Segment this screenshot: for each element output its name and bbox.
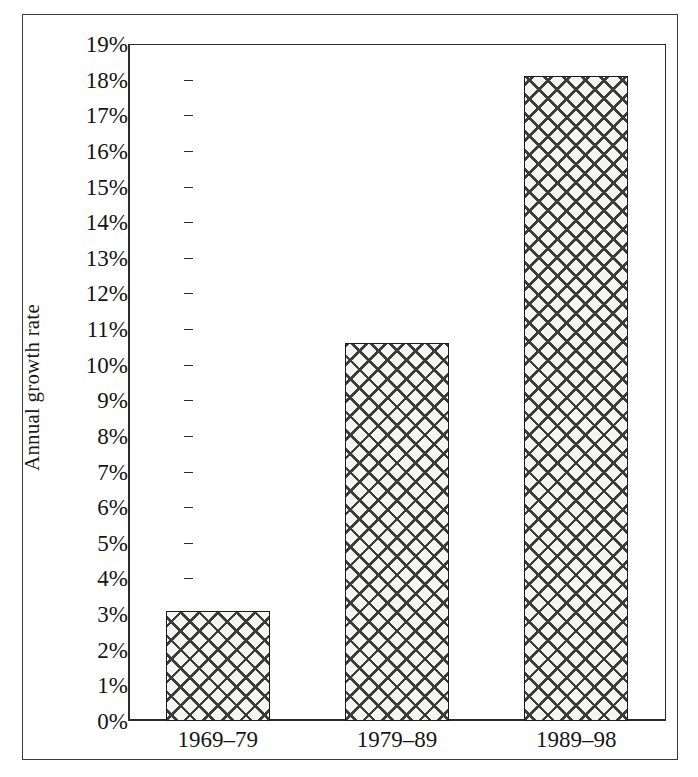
- y-tick-mark: [184, 365, 193, 366]
- y-tick-mark: [184, 400, 193, 401]
- y-axis-ticks: 0%1%2%3%4%5%6%7%8%9%10%11%12%13%14%15%16…: [56, 0, 128, 777]
- y-tick-mark: [184, 543, 193, 544]
- bar-1989–98: [524, 76, 628, 721]
- y-tick-label: 14%: [66, 211, 128, 234]
- y-axis-title: Annual growth rate: [20, 293, 45, 483]
- y-tick-mark: [184, 472, 193, 473]
- bar-1969–79: [166, 611, 270, 721]
- y-tick-mark: [184, 151, 193, 152]
- y-tick-mark: [184, 258, 193, 259]
- y-tick-label: 1%: [66, 674, 128, 697]
- y-tick-label: 4%: [66, 567, 128, 590]
- y-tick-label: 2%: [66, 638, 128, 661]
- y-tick-label: 3%: [66, 603, 128, 626]
- y-tick-label: 10%: [66, 353, 128, 376]
- y-tick-mark: [184, 222, 193, 223]
- y-tick-label: 13%: [66, 246, 128, 269]
- y-tick-label: 6%: [66, 496, 128, 519]
- y-tick-mark: [184, 293, 193, 294]
- y-tick-mark: [184, 578, 193, 579]
- y-tick-mark: [184, 329, 193, 330]
- y-tick-label: 7%: [66, 460, 128, 483]
- x-tick-label: 1969–79: [128, 727, 307, 753]
- y-tick-mark: [184, 436, 193, 437]
- y-tick-label: 5%: [66, 531, 128, 554]
- y-tick-label: 17%: [66, 104, 128, 127]
- y-tick-label: 18%: [66, 68, 128, 91]
- y-tick-mark: [184, 115, 193, 116]
- y-tick-mark: [184, 80, 193, 81]
- y-tick-label: 9%: [66, 389, 128, 412]
- bar-1979–89: [345, 343, 449, 721]
- y-tick-mark: [184, 507, 193, 508]
- chart-figure: Annual growth rate 0%1%2%3%4%5%6%7%8%9%1…: [0, 0, 698, 777]
- y-tick-label: 19%: [66, 33, 128, 56]
- y-tick-label: 16%: [66, 139, 128, 162]
- x-tick-label: 1989–98: [487, 727, 666, 753]
- y-tick-mark: [184, 187, 193, 188]
- y-tick-label: 8%: [66, 424, 128, 447]
- y-tick-label: 11%: [66, 318, 128, 341]
- y-tick-label: 12%: [66, 282, 128, 305]
- y-tick-label: 15%: [66, 175, 128, 198]
- x-tick-label: 1979–89: [307, 727, 486, 753]
- y-tick-label: 0%: [66, 710, 128, 733]
